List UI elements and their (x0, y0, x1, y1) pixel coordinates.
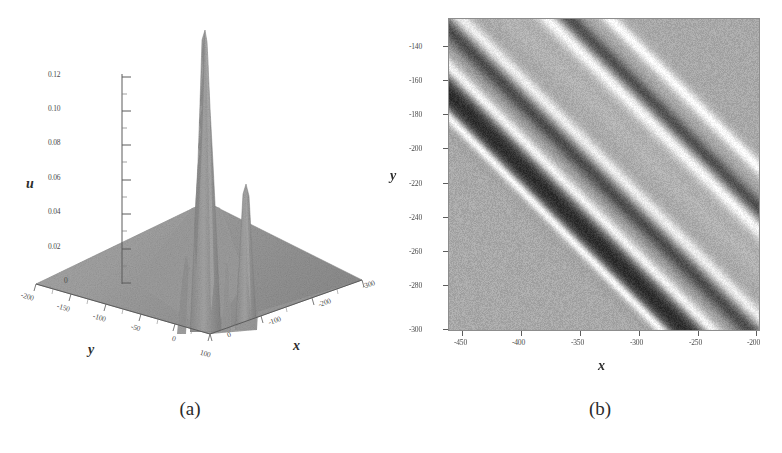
surface-plot-3d (14, 12, 384, 392)
b-y-tick-2: -180 (409, 110, 422, 119)
b-y-tick-3: -200 (409, 144, 422, 153)
b-x-tick-5: -200 (747, 338, 760, 347)
b-y-tick-4: -220 (409, 179, 422, 188)
b-y-tick-5: -240 (409, 213, 422, 222)
b-y-tickmark-8 (443, 329, 448, 330)
b-x-tickmark-4 (698, 331, 699, 336)
b-y-tickmark-6 (443, 251, 448, 252)
b-y-tickmark-1 (443, 80, 448, 81)
axis-label-x: x (293, 338, 300, 354)
b-x-tick-4: -250 (689, 338, 702, 347)
b-axis-label-y: y (390, 168, 396, 184)
u-tick-2: 0.08 (48, 138, 60, 147)
axis-label-y: y (88, 342, 94, 358)
b-axis-label-x: x (598, 358, 605, 374)
b-x-tickmark-0 (462, 331, 463, 336)
u-tick-1: 0.10 (48, 104, 60, 113)
b-x-tick-3: -300 (630, 338, 643, 347)
b-y-tickmark-3 (443, 148, 448, 149)
u-tick-5: 0.02 (48, 242, 60, 251)
b-y-tickmark-4 (443, 183, 448, 184)
b-y-tickmark-0 (443, 46, 448, 47)
caption-panel-a: (a) (130, 398, 250, 420)
u-tick-6: 0 (64, 276, 68, 285)
b-y-tick-8: -300 (409, 325, 422, 334)
b-y-tick-0: -140 (409, 42, 422, 51)
density-plot-canvas (449, 19, 759, 330)
u-tick-0: 0.12 (48, 70, 60, 79)
b-x-tickmark-2 (580, 331, 581, 336)
b-x-tickmark-3 (639, 331, 640, 336)
panel-a-surface-plot: 0.12 0.10 0.08 0.06 0.04 0.02 0 u -200 -… (0, 0, 390, 453)
b-x-tickmark-5 (756, 331, 757, 336)
figure-two-panels: 0.12 0.10 0.08 0.06 0.04 0.02 0 u -200 -… (0, 0, 782, 453)
u-tick-3: 0.06 (48, 173, 60, 182)
b-y-tick-1: -160 (409, 76, 422, 85)
b-y-tick-7: -280 (409, 281, 422, 290)
b-x-tickmark-1 (521, 331, 522, 336)
b-y-tickmark-5 (443, 217, 448, 218)
b-x-tick-1: -400 (512, 338, 525, 347)
u-tick-4: 0.04 (48, 207, 60, 216)
axis-label-u: u (26, 176, 34, 192)
b-x-tick-0: -450 (454, 338, 467, 347)
panel-b-density-plot: -140 -160 -180 -200 -220 -240 -260 -280 … (390, 0, 782, 453)
caption-panel-b: (b) (540, 398, 660, 420)
b-y-tickmark-2 (443, 114, 448, 115)
b-y-tickmark-7 (443, 285, 448, 286)
density-plot-frame (448, 18, 760, 331)
b-y-tick-6: -260 (409, 247, 422, 256)
b-x-tick-2: -350 (571, 338, 584, 347)
